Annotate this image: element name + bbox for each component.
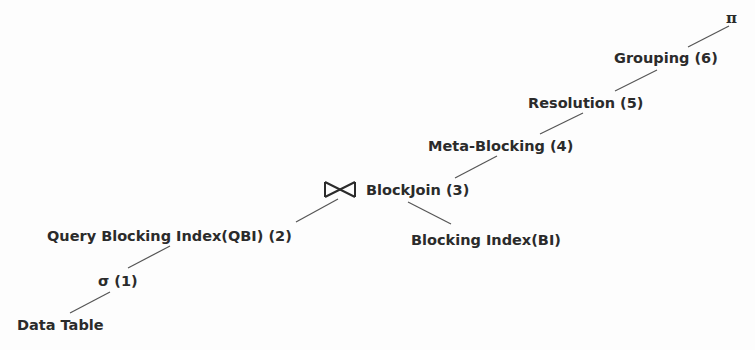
node-query-blocking-index: Query Blocking Index(QBI) (2) bbox=[47, 229, 292, 244]
edge-resolution-metablocking bbox=[540, 113, 583, 134]
bowtie-join-icon bbox=[323, 181, 357, 198]
edge-sigma-datatable bbox=[70, 292, 110, 313]
node-selection: σ (1) bbox=[98, 274, 138, 289]
node-grouping: Grouping (6) bbox=[614, 51, 718, 66]
edge-blockjoin-qbi bbox=[296, 199, 338, 222]
edge-qbi-sigma bbox=[128, 246, 170, 268]
node-blocking-index: Blocking Index(BI) bbox=[411, 233, 561, 248]
edge-pi-grouping bbox=[688, 26, 729, 47]
edge-grouping-resolution bbox=[615, 70, 657, 91]
edge-blockjoin-bi bbox=[408, 202, 451, 224]
node-data-table: Data Table bbox=[17, 318, 104, 333]
query-plan-diagram: π Grouping (6) Resolution (5) Meta-Block… bbox=[0, 0, 755, 350]
edge-metablocking-blockjoin bbox=[455, 156, 497, 178]
node-meta-blocking: Meta-Blocking (4) bbox=[428, 139, 573, 154]
node-projection: π bbox=[726, 11, 737, 26]
node-resolution: Resolution (5) bbox=[528, 96, 643, 111]
node-blockjoin: BlockJoin (3) bbox=[366, 183, 469, 198]
